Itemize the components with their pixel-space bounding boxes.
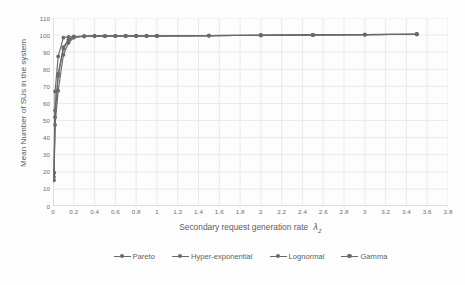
plot-area: [53, 18, 448, 206]
x-tick-label: 2.6: [312, 208, 334, 216]
x-tick-label: 1.8: [229, 208, 251, 216]
y-tick-label: 20: [24, 168, 50, 175]
legend-dot: [120, 254, 124, 258]
legend-marker-icon: [270, 253, 287, 260]
x-tick-label: 3.2: [375, 208, 397, 216]
axis-lines: [53, 18, 448, 206]
legend-marker-icon: [341, 253, 358, 260]
x-tick-label: 1.4: [188, 208, 210, 216]
x-tick-label: 2.2: [271, 208, 293, 216]
gridlines: [53, 18, 448, 206]
data-point: [56, 89, 60, 93]
y-tick-label: 90: [24, 49, 50, 56]
y-tick-label: 70: [24, 83, 50, 90]
chart-legend: ParetoHyper-exponentialLognormalGamma: [53, 248, 448, 264]
data-point: [53, 123, 57, 127]
data-point: [61, 53, 65, 57]
series-line: [54, 34, 417, 177]
y-tick-label: 30: [24, 151, 50, 158]
x-axis-title: Secondary request generation rate λ2: [53, 222, 448, 237]
data-point: [155, 34, 159, 38]
data-point: [93, 34, 97, 38]
data-point: [61, 36, 65, 40]
data-point: [207, 34, 211, 38]
data-point: [259, 33, 263, 37]
data-point: [103, 34, 107, 38]
y-tick-label: 80: [24, 66, 50, 73]
legend-dot: [178, 254, 182, 258]
legend-item-pareto[interactable]: Pareto: [114, 252, 155, 261]
x-tick-label: 3.6: [416, 208, 438, 216]
x-tick-label: 2.4: [291, 208, 313, 216]
y-tick-label: 10: [24, 185, 50, 192]
x-tick-label: 0.8: [125, 208, 147, 216]
y-axis-tick-labels: 0102030405060708090100110: [24, 12, 50, 212]
legend-item-hyper-exponential[interactable]: Hyper-exponential: [172, 252, 253, 261]
data-point: [311, 33, 315, 37]
legend-marker-icon: [172, 253, 189, 260]
data-point: [53, 178, 56, 182]
x-tick-label: 1: [146, 208, 168, 216]
x-tick-label: 2: [250, 208, 272, 216]
data-point: [72, 36, 76, 40]
y-tick-label: 100: [24, 32, 50, 39]
x-tick-label: 3.8: [437, 208, 459, 216]
x-axis-tick-labels: 00.20.40.60.811.21.41.61.822.22.42.62.83…: [53, 208, 448, 220]
data-point: [415, 32, 419, 36]
x-axis-title-text: Secondary request generation rate: [179, 222, 308, 232]
data-point: [82, 34, 86, 38]
data-point: [145, 34, 149, 38]
data-point: [113, 34, 117, 38]
x-tick-label: 3.4: [395, 208, 417, 216]
chart-figure: Mean Number of SUs in the system 0102030…: [0, 0, 465, 285]
legend-label: Hyper-exponential: [190, 252, 253, 261]
x-axis-symbol: λ2: [310, 222, 321, 232]
y-tick-label: 110: [24, 15, 50, 22]
data-point: [56, 55, 60, 59]
x-tick-label: 1.6: [208, 208, 230, 216]
data-point: [124, 34, 128, 38]
x-tick-label: 2.8: [333, 208, 355, 216]
data-point: [61, 47, 65, 51]
x-tick-label: 0.4: [84, 208, 106, 216]
x-tick-label: 0: [42, 208, 64, 216]
x-tick-label: 1.2: [167, 208, 189, 216]
data-point: [363, 33, 367, 37]
y-tick-label: 40: [24, 134, 50, 141]
plot-canvas: [53, 18, 448, 206]
x-tick-label: 0.2: [63, 208, 85, 216]
legend-item-gamma[interactable]: Gamma: [341, 252, 387, 261]
legend-label: Gamma: [359, 252, 387, 261]
y-tick-label: 60: [24, 100, 50, 107]
legend-item-lognormal[interactable]: Lognormal: [270, 252, 325, 261]
legend-label: Lognormal: [288, 252, 325, 261]
legend-label: Pareto: [132, 252, 155, 261]
legend-marker-icon: [114, 253, 131, 260]
x-tick-label: 3: [354, 208, 376, 216]
series-gamma: [53, 32, 419, 182]
y-tick-label: 50: [24, 117, 50, 124]
data-point: [134, 34, 138, 38]
legend-dot: [347, 254, 351, 258]
legend-dot: [276, 254, 280, 258]
x-tick-label: 0.6: [104, 208, 126, 216]
series-line: [54, 34, 417, 180]
series-hyper-exponential: [53, 32, 419, 179]
data-point: [67, 41, 71, 45]
